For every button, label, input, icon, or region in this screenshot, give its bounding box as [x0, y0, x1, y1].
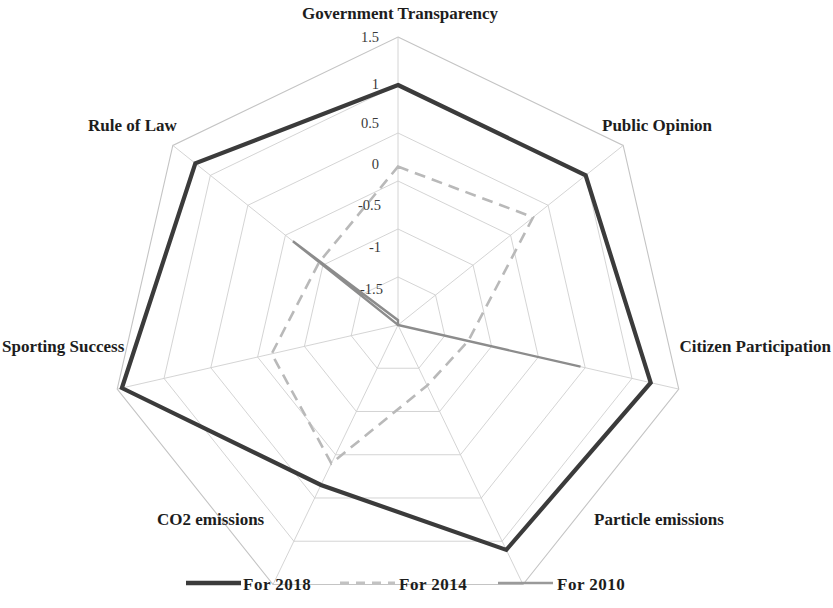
- tick-label-0: 0: [372, 156, 379, 172]
- data-series-layer: [122, 85, 651, 550]
- tick-label-1: 1: [372, 76, 379, 92]
- tick-label-neg1: -1: [369, 239, 381, 255]
- axis-label-rule-of-law: Rule of Law: [88, 116, 178, 135]
- axis-spoke: [398, 145, 623, 325]
- legend-label-for-2010: For 2010: [557, 575, 625, 594]
- tick-label-neg1-5: -1.5: [360, 281, 383, 297]
- radar-chart: 1.5 1 0.5 0 -0.5 -1 -1.5 Government Tran…: [0, 0, 833, 608]
- axis-label-particle-emissions: Particle emissions: [594, 510, 724, 529]
- axis-labels: Government Transparency Public Opinion C…: [2, 4, 832, 529]
- radial-tick-labels: 1.5 1 0.5 0 -0.5 -1 -1.5: [358, 29, 383, 297]
- legend-label-for-2018: For 2018: [243, 575, 311, 594]
- legend-label-for-2014: For 2014: [399, 575, 467, 594]
- radar-chart-svg: 1.5 1 0.5 0 -0.5 -1 -1.5 Government Tran…: [0, 0, 833, 608]
- series-line-for-2014: [272, 167, 533, 464]
- axis-label-co2-emissions: CO2 emissions: [157, 510, 265, 529]
- axis-label-citizen-participation: Citizen Participation: [679, 337, 831, 356]
- series-line-for-2018: [122, 85, 651, 550]
- axis-spokes: [117, 37, 679, 584]
- tick-label-1-5: 1.5: [361, 29, 379, 45]
- axis-spoke: [117, 325, 398, 389]
- legend-item-for-2018[interactable]: For 2018: [186, 575, 311, 594]
- tick-label-0-5: 0.5: [361, 115, 379, 131]
- axis-label-public-opinion: Public Opinion: [602, 116, 713, 135]
- series-line-for-2010: [293, 241, 581, 366]
- chart-legend: For 2018 For 2014 For 2010: [186, 575, 625, 594]
- axis-label-government-transparency: Government Transparency: [302, 4, 498, 23]
- axis-label-sporting-success: Sporting Success: [2, 337, 125, 356]
- tick-label-neg0-5: -0.5: [358, 197, 381, 213]
